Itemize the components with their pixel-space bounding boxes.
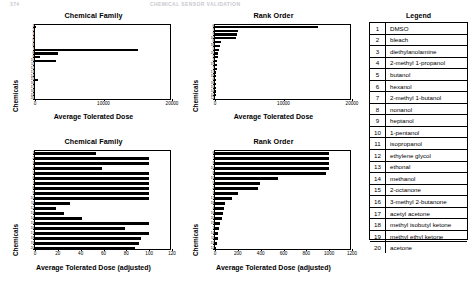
legend-row-label: 3-methyl 2-butanone bbox=[386, 198, 447, 205]
legend-row-number: 1 bbox=[370, 23, 386, 34]
bar-series: 1234567891011121314151617181920020406080… bbox=[35, 151, 170, 249]
page-header: 374 CHEMICAL SENSOR VALIDATION bbox=[0, 0, 472, 10]
bar bbox=[215, 49, 219, 51]
bar bbox=[215, 87, 216, 89]
x-tick-label: 20000 bbox=[166, 101, 179, 106]
bar bbox=[215, 60, 217, 62]
bar bbox=[35, 172, 149, 175]
bar bbox=[215, 242, 217, 245]
legend-row-number: 9 bbox=[370, 115, 386, 126]
bar-series: 6791081552317184162019114111312020040060… bbox=[215, 151, 350, 249]
x-axis-label: Average Tolerated Dose (adjusted) bbox=[6, 264, 181, 271]
bar bbox=[215, 187, 258, 190]
y-tick-label: 19 bbox=[31, 242, 35, 245]
plot-area: 6791081552317184162019114111312020040060… bbox=[214, 150, 351, 250]
y-tick-label: 20 bbox=[211, 217, 215, 220]
page-header-left: 374 bbox=[10, 1, 20, 7]
legend-row-label: methyl ethyl ketone bbox=[386, 233, 443, 240]
bar bbox=[35, 192, 149, 195]
bar bbox=[215, 41, 221, 43]
legend-row-label: butanol bbox=[386, 71, 410, 78]
x-tick-label: 40 bbox=[78, 251, 83, 256]
bar bbox=[35, 182, 149, 185]
legend-row-label: ethonal bbox=[386, 163, 410, 170]
legend-row-label: 2-methyl 1-propanol bbox=[386, 59, 445, 66]
bar bbox=[35, 232, 149, 235]
bar bbox=[215, 232, 218, 235]
chart-title: Chemical Family bbox=[6, 12, 181, 20]
bar bbox=[215, 71, 216, 73]
y-tick-label: 19 bbox=[211, 222, 215, 225]
y-tick-label: 12 bbox=[31, 207, 35, 210]
legend-row-label: acetyl acetone bbox=[386, 210, 430, 217]
legend-row: 2bleach bbox=[370, 35, 467, 47]
legend-row-number: 7 bbox=[370, 92, 386, 103]
bar bbox=[215, 237, 218, 240]
legend-row-number: 4 bbox=[370, 58, 386, 69]
y-tick-label: 17 bbox=[211, 197, 215, 200]
bar bbox=[215, 222, 220, 225]
bar bbox=[215, 212, 223, 215]
x-tick-label: 0 bbox=[214, 101, 217, 106]
bar bbox=[35, 197, 149, 200]
y-tick-label: 8 bbox=[212, 172, 215, 175]
y-tick-label: 14 bbox=[31, 217, 35, 220]
legend-row-number: 3 bbox=[370, 46, 386, 57]
y-tick-label: 16 bbox=[31, 227, 35, 230]
y-tick-label: 14 bbox=[211, 232, 215, 235]
bar bbox=[35, 157, 149, 160]
legend-row: 101-pentanol bbox=[370, 127, 467, 139]
y-tick-label: 4 bbox=[212, 207, 215, 210]
legend-row-label: nonanol bbox=[386, 106, 412, 113]
y-tick-label: 8 bbox=[32, 187, 35, 190]
bar bbox=[215, 56, 218, 58]
bar bbox=[35, 237, 141, 240]
legend-row-number: 8 bbox=[370, 104, 386, 115]
y-tick-label: 15 bbox=[31, 222, 35, 225]
y-tick-label: 4 bbox=[32, 167, 35, 170]
legend-row: 19methyl ethyl ketone bbox=[370, 231, 467, 243]
x-tick-label: 800 bbox=[302, 251, 310, 256]
bar bbox=[215, 162, 329, 165]
bar bbox=[35, 56, 40, 58]
plot-area: 1234567891011121314151617181920010000200… bbox=[34, 24, 171, 100]
bar bbox=[215, 79, 216, 81]
legend-row-label: heptanol bbox=[386, 117, 414, 124]
legend-row: 72-methyl 1-butanol bbox=[370, 92, 467, 104]
y-tick-label: 1 bbox=[32, 152, 35, 155]
legend-row-label: isopropanol bbox=[386, 140, 422, 147]
legend-row-number: 17 bbox=[370, 208, 386, 219]
y-axis-label: Chemicals bbox=[12, 80, 19, 112]
legend-row-label: hexanol bbox=[386, 83, 412, 90]
bar bbox=[35, 167, 102, 170]
legend-row-label: ethylene glycol bbox=[386, 152, 431, 159]
legend-row: 3diethylanolamine bbox=[370, 46, 467, 58]
bar bbox=[215, 172, 326, 175]
bar bbox=[35, 217, 82, 220]
bar bbox=[215, 30, 238, 32]
bar bbox=[215, 177, 278, 180]
bar bbox=[215, 64, 217, 66]
y-tick-label: 3 bbox=[212, 192, 215, 195]
legend-row-number: 14 bbox=[370, 173, 386, 184]
bar bbox=[215, 33, 237, 35]
legend-row-label: diethylanolamine bbox=[386, 48, 436, 55]
y-axis-label: Chemicals bbox=[192, 80, 199, 112]
bar bbox=[215, 182, 260, 185]
y-tick-label: 18 bbox=[211, 202, 215, 205]
x-tick-label: 120 bbox=[168, 251, 176, 256]
chart-panel-chemical-family-adjusted: Chemical Family Chemicals 12345678910111… bbox=[6, 138, 181, 288]
legend-row-number: 10 bbox=[370, 127, 386, 138]
x-tick-label: 0 bbox=[214, 251, 217, 256]
x-tick-label: 100 bbox=[145, 251, 153, 256]
bar bbox=[35, 222, 149, 225]
y-tick-label: 11 bbox=[31, 202, 35, 205]
y-tick-label: 6 bbox=[212, 152, 215, 155]
legend-row-number: 20 bbox=[370, 242, 386, 253]
legend-row: 6hexanol bbox=[370, 81, 467, 93]
legend-row: 11isopropanol bbox=[370, 138, 467, 150]
bar bbox=[35, 152, 96, 155]
legend-row-number: 11 bbox=[370, 138, 386, 149]
y-tick-label: 9 bbox=[32, 192, 35, 195]
chart-title: Chemical Family bbox=[6, 138, 181, 146]
